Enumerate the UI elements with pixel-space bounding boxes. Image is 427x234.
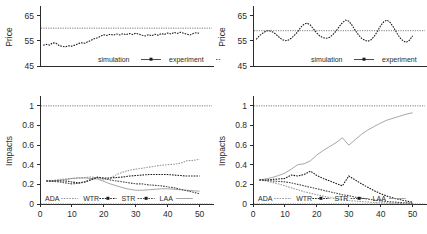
series-ada xyxy=(46,159,199,181)
chart-legend: ADAWTRSTRLAA xyxy=(45,195,193,202)
y-tick-label: 0.8 xyxy=(235,120,247,130)
y-tick-label: 0.4 xyxy=(235,160,247,170)
y-tick-label: 65 xyxy=(238,11,248,21)
y-tick-label: 0.2 xyxy=(22,179,34,189)
legend-label-WTR: WTR xyxy=(83,195,99,202)
chart-legend: ADAWTRSTRLAA xyxy=(258,195,406,202)
y-axis-title: Price xyxy=(217,27,227,47)
y-axis-title: Impacts xyxy=(4,136,14,166)
y-axis-title: Price xyxy=(4,27,14,47)
legend-label-WTR: WTR xyxy=(296,195,312,202)
axis-lines xyxy=(40,96,214,204)
chart-panel-bottom-left: 00.20.40.60.8101020304050ImpactsADAWTRST… xyxy=(0,86,214,234)
series-ada xyxy=(259,113,412,180)
x-tick-label: 20 xyxy=(99,209,109,219)
y-tick-label: 0.2 xyxy=(235,179,247,189)
series-simulation xyxy=(256,20,412,42)
legend-label-experiment: experiment xyxy=(382,56,417,64)
y-tick-label: 0 xyxy=(242,199,247,209)
legend-marker-simulation xyxy=(363,58,366,61)
x-tick-label: 10 xyxy=(67,209,77,219)
series-simulation xyxy=(43,32,199,47)
x-tick-label: 50 xyxy=(408,209,418,219)
x-tick-label: 40 xyxy=(163,209,173,219)
legend-label-ADA: ADA xyxy=(258,195,273,202)
legend-label-ADA: ADA xyxy=(45,195,60,202)
series-laa xyxy=(46,177,199,194)
legend-marker-STR xyxy=(145,197,148,200)
legend-marker-STR xyxy=(358,197,361,200)
series-wtr xyxy=(46,178,199,191)
legend-label-simulation: simulation xyxy=(98,56,130,63)
legend-marker-simulation xyxy=(150,58,153,61)
x-tick-label: 30 xyxy=(344,209,354,219)
y-tick-label: 45 xyxy=(25,61,35,71)
x-tick-label: 0 xyxy=(251,209,256,219)
x-tick-label: 30 xyxy=(131,209,141,219)
legend-label-STR: STR xyxy=(334,195,348,202)
chart-panel-top-left: 455565Pricesimulationexperiment xyxy=(0,0,214,86)
chart-legend: simulationexperiment xyxy=(98,56,221,64)
y-tick-label: 0.4 xyxy=(22,160,34,170)
figure-container: 455565Pricesimulationexperiment455565Pri… xyxy=(0,0,427,234)
chart-legend: simulationexperiment xyxy=(311,56,427,64)
axis-lines xyxy=(253,96,427,204)
chart-panel-top-right: 455565Pricesimulationexperiment xyxy=(213,0,427,86)
y-tick-label: 55 xyxy=(238,36,248,46)
x-tick-label: 0 xyxy=(38,209,43,219)
y-tick-label: 55 xyxy=(25,36,35,46)
y-tick-label: 0.6 xyxy=(235,140,247,150)
y-tick-label: 0 xyxy=(29,199,34,209)
x-tick-label: 20 xyxy=(312,209,322,219)
y-axis-title: Impacts xyxy=(217,136,227,166)
legend-label-LAA: LAA xyxy=(160,195,174,202)
x-tick-label: 10 xyxy=(280,209,290,219)
legend-label-LAA: LAA xyxy=(373,195,387,202)
y-tick-label: 0.8 xyxy=(22,120,34,130)
legend-marker-WTR xyxy=(106,197,109,200)
y-tick-label: 45 xyxy=(238,61,248,71)
y-tick-label: 1 xyxy=(242,101,247,111)
x-tick-label: 50 xyxy=(195,209,205,219)
legend-label-experiment: experiment xyxy=(169,56,204,64)
y-tick-label: 0.6 xyxy=(22,140,34,150)
legend-label-simulation: simulation xyxy=(311,56,343,63)
y-tick-label: 65 xyxy=(25,11,35,21)
legend-label-STR: STR xyxy=(121,195,135,202)
legend-marker-WTR xyxy=(319,197,322,200)
y-tick-label: 1 xyxy=(29,101,34,111)
x-tick-label: 40 xyxy=(376,209,386,219)
chart-panel-bottom-right: 00.20.40.60.8101020304050ImpactsADAWTRST… xyxy=(213,86,427,234)
